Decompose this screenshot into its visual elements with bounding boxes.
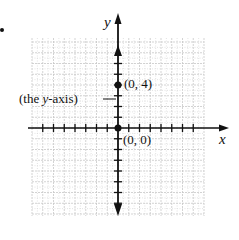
y-axis-label: y [102, 14, 111, 30]
list-bullet [0, 28, 4, 32]
coordinate-plane: y x (0, 4) (0, 0) (the y-axis) [0, 0, 239, 240]
y-axis-annotation: (the y-axis) [19, 91, 78, 106]
x-axis-label: x [218, 131, 226, 147]
point-label-origin: (0, 0) [123, 132, 151, 147]
point-label-0-4: (0, 4) [124, 76, 152, 91]
point-origin [115, 125, 122, 132]
point-0-4 [115, 82, 122, 89]
